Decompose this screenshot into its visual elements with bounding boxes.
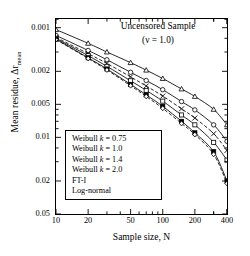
x-tick-label: 100 xyxy=(148,216,178,225)
y-tick-label: 0.01 xyxy=(6,132,50,141)
y-axis-label-subscript: mean xyxy=(15,52,22,66)
legend-box: Weibull k = 0.75 Weibull k = 1.0 Weibull… xyxy=(65,130,162,200)
series-weibull-k-1-0 xyxy=(56,33,227,143)
legend-item: FT-I xyxy=(72,176,157,186)
y-tick-label: 0.02 xyxy=(6,176,50,185)
legend-item: Weibull k = 1.4 xyxy=(72,155,157,165)
y-tick-label: 0.002 xyxy=(6,66,50,75)
x-tick-label: 400 xyxy=(212,216,242,225)
x-axis-label: Sample size, N xyxy=(55,232,228,242)
legend-item: Weibull k = 0.75 xyxy=(72,134,157,144)
x-tick-label: 20 xyxy=(73,216,103,225)
y-tick-label: 0.005 xyxy=(6,99,50,108)
legend-item: Weibull k = 2.0 xyxy=(72,165,157,175)
y-tick-label: 0.001 xyxy=(6,23,50,32)
figure-root: Mean residue, Δrmean 0.05 0.02 0.01 0.00… xyxy=(0,0,250,256)
chart-title-line1: Uncensored Sample xyxy=(88,20,228,34)
legend-item: Weibull k = 1.0 xyxy=(72,144,157,154)
x-tick-label: 200 xyxy=(180,216,210,225)
legend-item: Log-normal xyxy=(72,186,157,196)
chart-title: Uncensored Sample (ν = 1.0) xyxy=(88,20,228,47)
x-tick-label: 10 xyxy=(41,216,71,225)
chart-title-line2: (ν = 1.0) xyxy=(88,34,228,48)
x-tick-label: 50 xyxy=(116,216,146,225)
